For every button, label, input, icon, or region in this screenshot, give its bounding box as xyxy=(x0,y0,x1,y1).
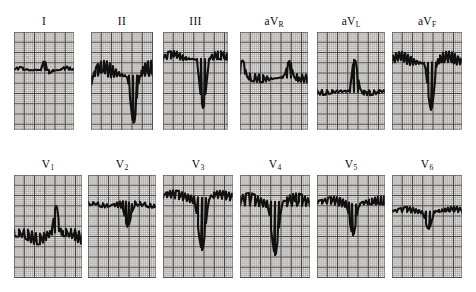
lead-label-v6: V6 xyxy=(392,159,462,171)
lead-label-subscript: 6 xyxy=(429,163,433,172)
lead-label-text: aV xyxy=(342,15,356,27)
lead-label-iii: III xyxy=(163,16,228,28)
lead-label-avl: aVL xyxy=(317,16,385,28)
ecg-grid-and-trace-v5 xyxy=(317,175,385,278)
lead-label-v2: V2 xyxy=(88,159,156,171)
lead-label-text: aV xyxy=(418,15,432,27)
ecg-lead-panel-v3 xyxy=(163,175,233,278)
ecg-grid-and-trace-iii xyxy=(163,32,228,130)
ecg-grid-and-trace-avr xyxy=(240,32,308,130)
lead-label-subscript: 1 xyxy=(50,163,54,172)
lead-label-v1: V1 xyxy=(14,159,82,171)
lead-label-v4: V4 xyxy=(240,159,310,171)
lead-label-text: III xyxy=(189,15,201,27)
ecg-lead-panel-v5 xyxy=(317,175,385,278)
lead-label-subscript: F xyxy=(432,20,436,29)
ecg-lead-panel-avf xyxy=(392,32,462,130)
ecg-lead-panel-avr xyxy=(240,32,308,130)
scan-speck xyxy=(259,262,261,263)
ecg-grid-and-trace-i xyxy=(14,32,74,130)
ecg-lead-panel-avl xyxy=(317,32,385,130)
ecg-grid-and-trace-v1 xyxy=(14,175,82,278)
lead-label-i: I xyxy=(14,16,74,28)
lead-label-subscript: L xyxy=(356,20,361,29)
ecg-grid-and-trace-avl xyxy=(317,32,385,130)
ecg-grid-and-trace-v6 xyxy=(392,175,462,278)
ecg-lead-panel-v1 xyxy=(14,175,82,278)
scan-speck xyxy=(62,82,63,84)
lead-label-text: II xyxy=(118,15,126,27)
lead-label-text: aV xyxy=(264,15,278,27)
scan-speck xyxy=(39,190,41,193)
lead-label-avf: aVF xyxy=(392,16,462,28)
lead-label-text: I xyxy=(42,15,46,27)
lead-label-subscript: 3 xyxy=(200,163,204,172)
ecg-figure: IIIIIIaVRaVLaVFV1V2V3V4V5V6 xyxy=(0,0,476,292)
scan-speck xyxy=(249,227,251,229)
lead-label-avr: aVR xyxy=(240,16,308,28)
scan-speck xyxy=(65,182,67,183)
ecg-grid-and-trace-ii xyxy=(91,32,153,130)
ecg-lead-panel-i xyxy=(14,32,74,130)
lead-label-subscript: 2 xyxy=(124,163,128,172)
ecg-lead-panel-ii xyxy=(91,32,153,130)
lead-label-subscript: R xyxy=(279,20,284,29)
ecg-grid-and-trace-v3 xyxy=(163,175,233,278)
ecg-lead-panel-v2 xyxy=(88,175,156,278)
ecg-lead-panel-v6 xyxy=(392,175,462,278)
ecg-grid-and-trace-avf xyxy=(392,32,462,130)
lead-label-v5: V5 xyxy=(317,159,385,171)
ecg-lead-panel-iii xyxy=(163,32,228,130)
ecg-grid-and-trace-v2 xyxy=(88,175,156,278)
lead-label-v3: V3 xyxy=(163,159,233,171)
lead-label-subscript: 5 xyxy=(353,163,357,172)
ecg-lead-panel-v4 xyxy=(240,175,310,278)
lead-label-subscript: 4 xyxy=(277,163,281,172)
lead-label-ii: II xyxy=(91,16,153,28)
